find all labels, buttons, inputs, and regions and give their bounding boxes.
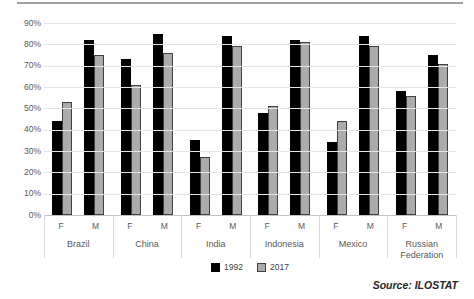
bar-1992-india-m [222,36,232,215]
bar-2017-indonesia-f [268,106,278,215]
bar-pair-china-f [121,59,141,215]
sex-label-china-m: M [147,221,181,231]
bar-2017-mexico-m [369,46,379,215]
bar-group-india [181,23,250,215]
sex-label-india-f: F [181,221,215,231]
bar-pair-russian-federation-f [396,91,416,215]
country-label-row: BrazilChinaIndiaIndonesiaMexicoRussian F… [44,239,456,261]
bar-2017-brazil-f [62,102,72,215]
gridline [44,194,456,195]
bar-group-indonesia [250,23,319,215]
bar-group-china [113,23,182,215]
sex-label-russian-federation-f: F [387,221,421,231]
plot-area [44,23,456,215]
gridline [44,66,456,67]
sex-label-brazil-f: F [44,221,78,231]
y-tick-label: 10% [0,188,41,199]
country-label-mexico: Mexico [319,239,388,261]
bar-1992-russian-federation-m [428,55,438,215]
legend-item-1992: 1992 [211,262,243,272]
sex-label-mexico-m: M [353,221,387,231]
bar-1992-indonesia-f [258,113,268,215]
country-label-indonesia: Indonesia [250,239,319,261]
separator-line [456,215,457,258]
sex-label-indonesia-m: M [284,221,318,231]
sex-label-mexico-f: F [319,221,353,231]
y-tick-label: 40% [0,124,41,135]
sex-label-row: FMFMFMFMFMFM [44,221,456,231]
sex-label-china-f: F [113,221,147,231]
country-label-china: China [113,239,182,261]
bar-pair-mexico-f [327,121,347,215]
bar-pair-china-m [153,34,173,215]
bar-2017-china-f [131,85,141,215]
bar-2017-indonesia-m [300,42,310,215]
bar-pair-mexico-m [359,36,379,215]
y-tick-label: 50% [0,103,41,114]
bar-2017-india-m [232,46,242,215]
x-axis-line [44,215,456,216]
sex-cell-indonesia: FM [250,221,319,231]
y-tick-label: 30% [0,146,41,157]
y-tick-label: 70% [0,60,41,71]
legend-swatch-1992-icon [211,263,220,272]
bar-1992-russian-federation-f [396,91,406,215]
legend-swatch-2017-icon [257,263,266,272]
gridline [44,151,456,152]
bar-1992-china-m [153,34,163,215]
bar-group-brazil [44,23,113,215]
chart-screenshot: 0%10%20%30%40%50%60%70%80%90% FMFMFMFMFM… [0,0,474,299]
bar-pair-russian-federation-m [428,55,448,215]
legend-label-1992: 1992 [224,262,243,272]
country-label-india: India [181,239,250,261]
gridline [44,108,456,109]
gridline [44,172,456,173]
bar-1992-brazil-f [52,121,62,215]
sex-label-india-m: M [216,221,250,231]
bar-pair-india-m [222,36,242,215]
bar-2017-brazil-m [94,55,104,215]
legend-label-2017: 2017 [270,262,289,272]
sex-label-indonesia-f: F [250,221,284,231]
bar-1992-mexico-f [327,142,337,215]
gridline [44,130,456,131]
y-tick-label: 90% [0,18,41,29]
sex-cell-india: FM [181,221,250,231]
bar-1992-china-f [121,59,131,215]
y-tick-label: 60% [0,82,41,93]
sex-cell-mexico: FM [319,221,388,231]
gridline [44,87,456,88]
legend: 1992 2017 [44,262,456,272]
bar-2017-russian-federation-f [406,96,416,215]
y-tick-label: 80% [0,39,41,50]
y-tick-label: 20% [0,167,41,178]
bar-group-russian-federation [387,23,456,215]
bar-2017-china-m [163,53,173,215]
sex-cell-brazil: FM [44,221,113,231]
bar-group-mexico [319,23,388,215]
country-label-russian-federation: Russian Federation [387,239,456,261]
top-divider-rule [17,2,463,4]
sex-cell-china: FM [113,221,182,231]
bar-2017-mexico-f [337,121,347,215]
gridline [44,23,456,24]
sex-label-russian-federation-m: M [422,221,456,231]
bar-2017-india-f [200,157,210,215]
bar-pair-indonesia-f [258,106,278,215]
bar-groups [44,23,456,215]
bar-pair-brazil-f [52,102,72,215]
country-label-brazil: Brazil [44,239,113,261]
gridline [44,44,456,45]
legend-item-2017: 2017 [257,262,289,272]
source-note: Source: ILOSTAT [373,279,458,291]
y-axis: 0%10%20%30%40%50%60%70%80%90% [0,0,41,299]
y-tick-label: 0% [0,210,41,221]
sex-cell-russian-federation: FM [387,221,456,231]
bar-1992-mexico-m [359,36,369,215]
sex-label-brazil-m: M [78,221,112,231]
